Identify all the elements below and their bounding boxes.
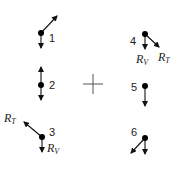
- point-label: 4: [130, 35, 136, 47]
- point-label: 6: [131, 126, 137, 138]
- arrow-outward-icon: [131, 138, 145, 153]
- point-5: 5: [131, 81, 148, 106]
- point-dot: [142, 135, 148, 141]
- point-label: 1: [49, 32, 55, 44]
- point-dot: [142, 31, 148, 37]
- arrow-outward-icon: [41, 16, 57, 33]
- vector-label-RV: RV: [46, 141, 60, 156]
- point-dot: [38, 30, 44, 36]
- point-3: 3RTRV: [3, 111, 60, 156]
- vector-label-RT: RT: [3, 111, 16, 126]
- point-6: 6: [131, 126, 148, 154]
- point-label: 5: [131, 81, 137, 93]
- point-dot: [142, 83, 148, 89]
- arrow-RT-icon: [24, 122, 42, 137]
- point-2: 2: [38, 67, 55, 100]
- point-1: 1: [38, 16, 57, 48]
- point-label: 2: [49, 79, 55, 91]
- point-label: 3: [49, 126, 55, 138]
- points-layer: 123RTRV4RVRT56: [3, 16, 170, 156]
- force-diagram: 123RTRV4RVRT56: [0, 0, 180, 174]
- point-dot: [39, 134, 45, 140]
- center-cross-marker: [83, 74, 103, 94]
- vector-label-RT: RT: [157, 50, 170, 65]
- vector-label-RV: RV: [135, 52, 149, 67]
- diagram-canvas: 123RTRV4RVRT56: [0, 0, 180, 174]
- point-dot: [38, 82, 44, 88]
- point-4: 4RVRT: [130, 31, 170, 67]
